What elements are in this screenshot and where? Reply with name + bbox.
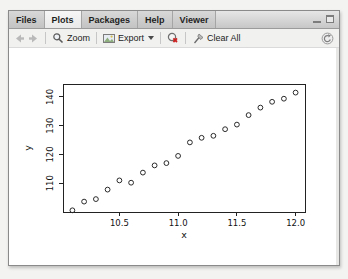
clear-all-button-label: Clear All [207, 33, 241, 43]
image-export-icon [103, 33, 115, 44]
maximize-button[interactable] [326, 15, 334, 23]
plots-pane: FilesPlotsPackagesHelpViewer Zoom [8, 10, 340, 266]
y-axis-label: y [22, 145, 33, 151]
data-point [270, 99, 275, 104]
data-point [246, 113, 251, 118]
broom-icon [192, 32, 204, 44]
refresh-icon [321, 32, 334, 45]
forward-arrow-icon [28, 33, 39, 44]
tab-packages[interactable]: Packages [82, 11, 139, 28]
plot-frame [63, 84, 305, 212]
tab-files[interactable]: Files [9, 11, 45, 28]
data-point [117, 178, 122, 183]
back-arrow-icon [14, 33, 25, 44]
x-tick-label: 10.5 [110, 218, 129, 228]
plot-display-area: 10.511.011.512.0110120130140xy [9, 48, 339, 265]
export-button-label: Export [118, 33, 144, 43]
tab-help[interactable]: Help [138, 11, 173, 28]
data-point [188, 140, 193, 145]
toolbar-separator [96, 32, 97, 44]
x-tick-label: 11.0 [169, 218, 188, 228]
data-point [199, 135, 204, 140]
export-button[interactable]: Export [103, 33, 154, 44]
maximize-icon [326, 15, 334, 23]
data-point [94, 197, 99, 202]
scatter-plot: 10.511.011.512.0110120130140xy [9, 48, 339, 265]
data-point [258, 105, 263, 110]
plots-toolbar: Zoom Export Clear All [9, 29, 339, 48]
remove-plot-icon [167, 32, 179, 44]
pane-right-edge [336, 48, 339, 265]
data-point [211, 133, 216, 138]
zoom-button-label: Zoom [67, 33, 90, 43]
data-point [82, 199, 87, 204]
clear-all-button[interactable]: Clear All [192, 32, 241, 44]
tab-viewer[interactable]: Viewer [173, 11, 217, 28]
data-point [152, 163, 157, 168]
forward-button[interactable] [28, 33, 39, 44]
zoom-button[interactable]: Zoom [52, 32, 90, 44]
refresh-button[interactable] [321, 32, 334, 45]
data-point [176, 154, 181, 159]
x-axis-label: x [181, 229, 187, 240]
data-point [235, 122, 240, 127]
minimize-icon [313, 21, 321, 23]
y-tick-label: 140 [45, 89, 55, 105]
toolbar-separator [45, 32, 46, 44]
y-tick-label: 110 [45, 175, 55, 191]
x-tick-label: 12.0 [286, 218, 305, 228]
y-tick-label: 120 [45, 146, 55, 162]
data-point [105, 187, 110, 192]
chevron-down-icon [148, 36, 154, 40]
y-tick-label: 130 [45, 118, 55, 134]
data-point [164, 161, 169, 166]
data-point [141, 170, 146, 175]
remove-plot-button[interactable] [167, 32, 179, 44]
minimize-button[interactable] [313, 16, 321, 23]
magnifier-icon [52, 32, 64, 44]
tab-bar-tabs: FilesPlotsPackagesHelpViewer [9, 11, 216, 28]
toolbar-separator [160, 32, 161, 44]
toolbar-separator [185, 32, 186, 44]
tab-bar: FilesPlotsPackagesHelpViewer [9, 11, 339, 29]
data-point [223, 127, 228, 132]
data-point [282, 96, 287, 101]
x-tick-label: 11.5 [227, 218, 246, 228]
window-controls [313, 15, 334, 23]
tab-plots[interactable]: Plots [45, 11, 82, 28]
data-point [293, 90, 298, 95]
data-point [129, 180, 134, 185]
back-button[interactable] [14, 33, 25, 44]
